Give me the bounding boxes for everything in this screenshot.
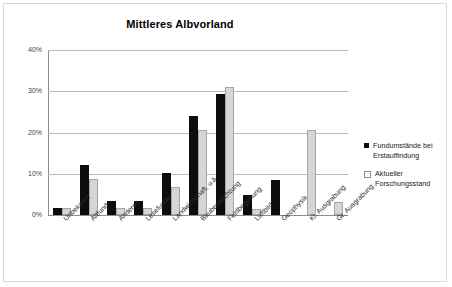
bar [307,130,316,215]
bar [107,201,116,215]
bar-group [75,51,102,215]
bar-group [103,51,130,215]
bar [198,130,207,215]
chart-frame: Mittleres Albvorland 0%10%20%30%40% Unbe… [3,3,447,282]
bar-group [130,51,157,215]
legend-label-line: Fundumstände bei [373,141,433,151]
filled-square-icon [364,143,369,148]
outlined-square-icon [364,171,371,178]
y-tick-label: 0% [8,211,42,218]
chart-title: Mittleres Albvorland [4,18,356,30]
bar-group [48,51,75,215]
chart-legend: Fundumstände beiErstauffindungAktuellerF… [364,141,452,197]
bar-group [293,51,320,215]
bar-group [157,51,184,215]
legend-item[interactable]: Fundumstände beiErstauffindung [364,141,452,160]
legend-item-label: Fundumstände beiErstauffindung [373,141,433,160]
legend-label-line: Erstauffindung [373,151,433,161]
y-tick-label: 40% [8,46,42,53]
bar [271,180,280,215]
legend-label-line: Aktueller [375,169,430,179]
y-tick-label: 30% [8,87,42,94]
y-tick-label: 20% [8,129,42,136]
legend-item[interactable]: AktuellerForschungsstand [364,169,452,188]
x-axis-category-labels: UnbekanntAltfundAnderesLesefundeLandwirt… [48,217,348,287]
legend-label-line: Forschungsstand [375,179,430,189]
y-tick-label: 10% [8,170,42,177]
bar [53,208,62,215]
bar-group [266,51,293,215]
legend-item-label: AktuellerForschungsstand [375,169,430,188]
